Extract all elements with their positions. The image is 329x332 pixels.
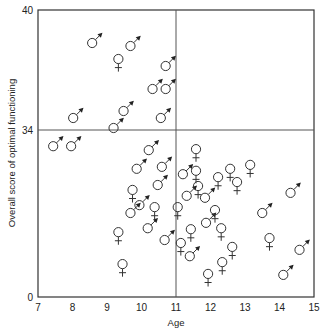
male-point bbox=[67, 136, 82, 151]
male-point bbox=[126, 203, 141, 218]
x-tick-label: 13 bbox=[239, 302, 251, 313]
female-point bbox=[128, 185, 137, 202]
female-point bbox=[191, 145, 200, 162]
female-point bbox=[114, 54, 123, 71]
male-point bbox=[157, 157, 172, 172]
x-axis-label: Age bbox=[168, 317, 185, 328]
female-point bbox=[246, 160, 255, 177]
male-point bbox=[143, 218, 158, 233]
female-point bbox=[118, 259, 127, 276]
y-tick-label: 0 bbox=[27, 292, 33, 303]
x-tick-label: 12 bbox=[205, 302, 217, 313]
female-point bbox=[232, 177, 241, 194]
female-point bbox=[114, 228, 123, 245]
male-point bbox=[295, 240, 310, 255]
male-point bbox=[279, 265, 294, 280]
male-point bbox=[178, 164, 193, 179]
male-point bbox=[200, 188, 215, 203]
female-point bbox=[150, 203, 159, 220]
x-tick-label: 9 bbox=[104, 302, 110, 313]
y-tick-label: 34 bbox=[22, 125, 34, 136]
male-point bbox=[160, 230, 175, 245]
x-tick-label: 11 bbox=[171, 302, 182, 313]
male-point bbox=[161, 56, 176, 71]
female-point bbox=[173, 203, 182, 220]
female-point bbox=[193, 181, 202, 198]
y-tick-labels: 03440 bbox=[22, 5, 34, 303]
male-point bbox=[153, 175, 168, 190]
female-point bbox=[228, 242, 237, 259]
male-point bbox=[258, 203, 273, 218]
male-point bbox=[135, 195, 150, 210]
y-axis-label: Overall score of optimal functioning bbox=[6, 79, 17, 227]
scatter-chart: 789101112131415 03440 Age Overall score … bbox=[0, 0, 329, 332]
male-point bbox=[185, 246, 200, 261]
data-points bbox=[49, 33, 310, 287]
x-tick-label: 8 bbox=[70, 302, 76, 313]
y-tick-label: 40 bbox=[22, 5, 34, 16]
male-point bbox=[132, 159, 147, 174]
x-tick-label: 10 bbox=[136, 302, 148, 313]
male-point bbox=[182, 186, 197, 201]
x-tick-labels: 789101112131415 bbox=[35, 302, 320, 313]
male-point bbox=[144, 140, 159, 155]
female-point bbox=[203, 269, 212, 286]
female-point bbox=[186, 225, 195, 242]
x-tick-label: 15 bbox=[308, 302, 320, 313]
male-point bbox=[286, 183, 301, 198]
x-tick-label: 7 bbox=[35, 302, 41, 313]
male-point bbox=[69, 108, 84, 123]
female-point bbox=[213, 173, 222, 190]
male-point bbox=[126, 36, 141, 51]
x-tick-label: 14 bbox=[274, 302, 286, 313]
male-point bbox=[148, 79, 163, 94]
male-point bbox=[161, 79, 176, 94]
female-point bbox=[217, 224, 226, 241]
male-point bbox=[156, 108, 171, 123]
male-point bbox=[119, 101, 134, 116]
female-point bbox=[218, 258, 227, 275]
female-point bbox=[191, 166, 200, 183]
female-point bbox=[176, 238, 185, 255]
male-point bbox=[88, 33, 103, 48]
male-point bbox=[49, 136, 64, 151]
female-point bbox=[265, 233, 274, 250]
